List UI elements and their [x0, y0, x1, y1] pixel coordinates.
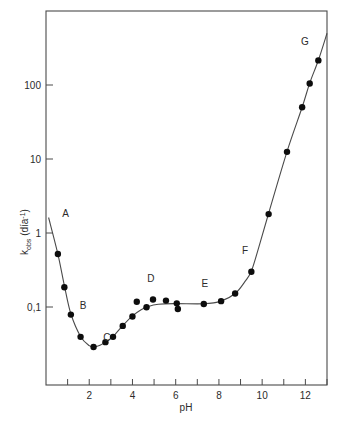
y-axis-title-subscript: obs [25, 238, 32, 250]
x-tick-label: 12 [300, 390, 312, 401]
data-point [150, 296, 156, 302]
point-label-a: A [62, 208, 69, 219]
data-point [299, 104, 305, 110]
y-axis-title-text: kobs (día-1) [19, 209, 32, 255]
x-tick-label: 4 [130, 390, 136, 401]
y-axis-ticks [46, 85, 53, 307]
x-tick-label: 8 [216, 390, 222, 401]
point-label-e: E [202, 278, 209, 289]
data-point [68, 311, 74, 317]
plot-frame [46, 11, 327, 385]
data-point [143, 304, 149, 310]
x-tick-label: 2 [86, 390, 92, 401]
data-point [315, 57, 321, 63]
point-label-b: B [80, 300, 87, 311]
y-tick-label: 1 [35, 228, 41, 239]
fitted-curve [49, 33, 327, 347]
data-point [61, 284, 67, 290]
x-axis-tick-labels: 24681012 [86, 390, 311, 401]
ph-rate-profile-chart: 24681012 1001010,1 ABCDEFG pH kobs (día-… [0, 0, 338, 433]
y-axis-title: kobs (día-1) [19, 209, 32, 255]
data-point [218, 298, 224, 304]
data-point [77, 334, 83, 340]
point-label-d: D [147, 273, 154, 284]
chart-container: 24681012 1001010,1 ABCDEFG pH kobs (día-… [0, 0, 338, 433]
data-point [307, 80, 313, 86]
x-axis-title: pH [180, 402, 193, 413]
data-point [120, 323, 126, 329]
data-point [129, 313, 135, 319]
data-point [110, 334, 116, 340]
data-point [232, 290, 238, 296]
point-label-g: G [301, 36, 309, 47]
data-points [55, 57, 322, 350]
point-label-f: F [242, 245, 248, 256]
data-point [201, 301, 207, 307]
y-axis-tick-labels: 1001010,1 [24, 80, 41, 313]
data-point [90, 344, 96, 350]
data-point [55, 251, 61, 257]
y-tick-label: 0,1 [27, 302, 41, 313]
data-point [134, 298, 140, 304]
data-point [248, 268, 254, 274]
data-point [175, 306, 181, 312]
y-axis-title-paren: ) [19, 209, 30, 212]
data-point [163, 297, 169, 303]
data-point [174, 300, 180, 306]
data-point [265, 211, 271, 217]
data-point [284, 149, 290, 155]
point-annotations: ABCDEFG [62, 36, 309, 343]
x-axis-ticks [68, 379, 327, 385]
point-label-c: C [103, 332, 110, 343]
x-tick-label: 10 [257, 390, 269, 401]
y-tick-label: 100 [24, 80, 41, 91]
x-tick-label: 6 [173, 390, 179, 401]
y-axis-title-unit: (día [19, 218, 30, 236]
y-tick-label: 10 [30, 154, 42, 165]
